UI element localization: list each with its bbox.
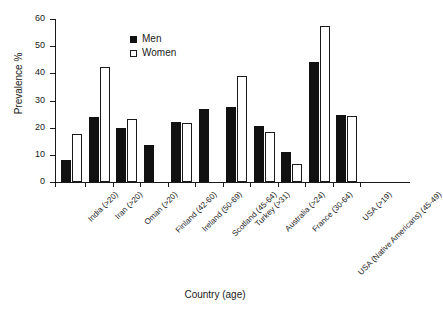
x-axis-line bbox=[55, 182, 410, 183]
x-tick-label: USA (>19) bbox=[361, 190, 394, 223]
bar-women bbox=[72, 134, 82, 182]
x-tick bbox=[305, 183, 306, 187]
plot-area bbox=[55, 19, 410, 182]
x-tick bbox=[250, 183, 251, 187]
x-tick-label: Oman (>20) bbox=[143, 190, 180, 227]
bar-women bbox=[237, 76, 247, 182]
bar-men bbox=[171, 122, 181, 182]
x-tick bbox=[333, 183, 334, 187]
bar-men bbox=[254, 126, 264, 182]
bar-women bbox=[265, 132, 275, 182]
y-tick-label: 60 bbox=[0, 14, 45, 23]
y-tick-label: 40 bbox=[0, 68, 45, 77]
chart-legend: Men Women bbox=[130, 32, 176, 60]
bar-men bbox=[116, 128, 126, 182]
y-tick-label: 10 bbox=[0, 150, 45, 159]
x-tick bbox=[168, 183, 169, 187]
bar-women bbox=[127, 119, 137, 182]
x-tick bbox=[195, 183, 196, 187]
legend-swatch-men-icon bbox=[130, 36, 137, 43]
bar-women bbox=[320, 26, 330, 182]
x-tick bbox=[140, 183, 141, 187]
bar-women bbox=[292, 164, 302, 182]
legend-item-women: Women bbox=[130, 46, 176, 60]
y-tick-label: 30 bbox=[0, 96, 45, 105]
y-tick-label: 50 bbox=[0, 41, 45, 50]
x-tick-label: USA (Native Americans) (45-49) bbox=[356, 190, 443, 277]
y-tick-label: 0 bbox=[0, 177, 45, 186]
x-tick bbox=[55, 183, 56, 187]
x-tick bbox=[360, 183, 361, 187]
x-tick bbox=[278, 183, 279, 187]
x-axis-title: Country (age) bbox=[0, 289, 430, 300]
legend-swatch-women-icon bbox=[130, 50, 137, 57]
bar-men bbox=[61, 160, 71, 182]
legend-label-men: Men bbox=[142, 32, 161, 46]
bar-men bbox=[281, 152, 291, 182]
y-tick-label: 20 bbox=[0, 123, 45, 132]
bar-men bbox=[336, 115, 346, 182]
x-tick bbox=[223, 183, 224, 187]
bar-men bbox=[199, 109, 209, 182]
x-tick bbox=[113, 183, 114, 187]
bar-women bbox=[347, 116, 357, 182]
legend-item-men: Men bbox=[130, 32, 176, 46]
bar-men bbox=[144, 145, 154, 182]
x-tick bbox=[85, 183, 86, 187]
bar-women bbox=[100, 67, 110, 182]
x-tick-label: India (>20) bbox=[86, 190, 120, 224]
bar-men bbox=[89, 117, 99, 182]
bar-men bbox=[226, 107, 236, 182]
bar-women bbox=[182, 123, 192, 182]
bar-men bbox=[309, 62, 319, 182]
legend-label-women: Women bbox=[142, 46, 176, 60]
